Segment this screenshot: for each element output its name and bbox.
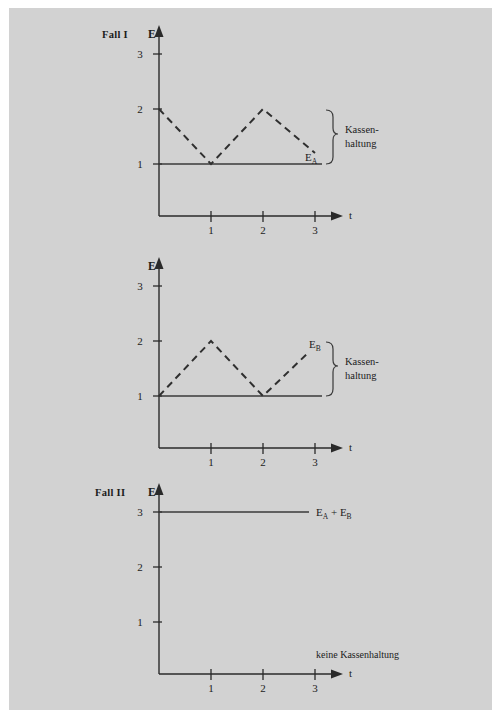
chart2-brace — [326, 342, 338, 396]
chart1-x-tick-label-3: 3 — [312, 224, 318, 236]
chart3-series-label: EA + EB — [316, 506, 352, 521]
chart2-y-axis-arrowhead — [155, 257, 164, 269]
chart3-x-tick-label-2: 2 — [260, 682, 266, 694]
chart2-x-axis-label: t — [349, 441, 352, 453]
chart1-brace-label-line1: Kassen- — [345, 124, 379, 135]
chart1-x-axis-arrowhead — [331, 212, 343, 221]
chart1-y-tick-label-2: 2 — [137, 103, 143, 115]
scanned-paper-area: Fall I E t 3 2 1 1 — [9, 8, 492, 710]
chart1-x-tick-label-2: 2 — [260, 224, 266, 236]
chart2-x-axis-arrowhead — [331, 444, 343, 453]
chart3-y-tick-label-2: 2 — [137, 561, 143, 573]
chart2-y-tick-label-2: 2 — [137, 335, 143, 347]
chart3-y-tick-label-1: 1 — [137, 616, 143, 628]
chart-fall-i: Fall I E t 3 2 1 1 — [9, 8, 492, 238]
chart1-y-tick-label-1: 1 — [137, 158, 143, 170]
chart1-y-axis-arrowhead — [155, 25, 164, 37]
chart1-case-label: Fall I — [102, 29, 128, 40]
chart3-x-axis-arrowhead — [331, 670, 343, 679]
chart1-x-tick-label-1: 1 — [208, 224, 214, 236]
chart1-brace-label-line2: haltung — [345, 138, 377, 149]
chart3-y-axis-arrowhead — [155, 483, 164, 495]
chart3-y-tick-label-3: 3 — [137, 506, 143, 518]
chart2-y-tick-label-1: 1 — [137, 390, 143, 402]
chart3-x-axis-label: t — [349, 667, 352, 679]
chart3-case-label: Fall II — [95, 487, 125, 498]
chart2-brace-label-line1: Kassen- — [345, 356, 379, 367]
chart2-y-axis-label: E — [148, 260, 156, 272]
chart1-dashed-series — [159, 109, 315, 164]
chart3-x-tick-label-1: 1 — [208, 682, 214, 694]
chart2-dashed-series — [159, 341, 309, 396]
chart-fall-ii: Fall II E t 3 2 1 1 2 3 — [9, 466, 492, 706]
chart3-x-tick-label-3: 3 — [312, 682, 318, 694]
figure-page: Fall I E t 3 2 1 1 — [0, 0, 501, 718]
chart1-brace — [326, 110, 338, 164]
chart3-y-axis-label: E — [148, 486, 156, 498]
chart1-x-axis-label: t — [349, 209, 352, 221]
chart2-y-tick-label-3: 3 — [137, 280, 143, 292]
chart1-y-axis-label: E — [148, 28, 156, 40]
chart1-y-tick-label-3: 3 — [137, 48, 143, 60]
chart2-brace-label-line2: haltung — [345, 370, 377, 381]
chart-e-b: E t 3 2 1 1 2 3 — [9, 240, 492, 470]
chart3-note-label: keine Kassenhaltung — [316, 649, 399, 660]
chart2-series-label: EB — [309, 338, 321, 353]
